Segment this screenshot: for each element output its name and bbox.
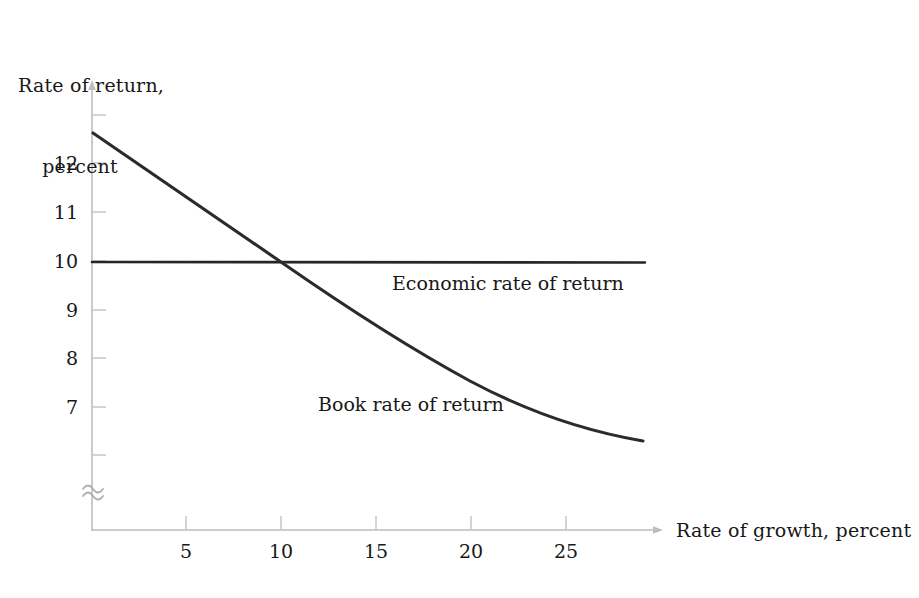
book-rate-of-return-label: Book rate of return xyxy=(318,393,504,415)
y-tick-label-12: 12 xyxy=(44,152,78,174)
y-tick-label-9: 9 xyxy=(44,299,78,321)
x-tick-label-10: 10 xyxy=(261,540,301,562)
y-tick-label-8: 8 xyxy=(44,347,78,369)
axes-group xyxy=(83,80,663,534)
y-tick-label-11: 11 xyxy=(44,201,78,223)
chart-figure: Rate of return, percent Rate of growth, … xyxy=(0,0,919,598)
y-axis-break-icon xyxy=(83,484,103,502)
y-axis-title: Rate of return, percent xyxy=(18,18,164,234)
economic-rate-of-return-line xyxy=(92,262,645,263)
x-tick-label-5: 5 xyxy=(166,540,206,562)
x-axis-arrow-icon xyxy=(653,526,663,534)
y-tick-label-10: 10 xyxy=(44,250,78,272)
y-axis-title-line2: percent xyxy=(18,153,164,180)
x-axis-title: Rate of growth, percent xyxy=(676,519,911,541)
economic-rate-of-return-label: Economic rate of return xyxy=(392,272,624,294)
x-tick-label-25: 25 xyxy=(546,540,586,562)
y-axis-title-line1: Rate of return, xyxy=(18,72,164,99)
y-tick-label-7: 7 xyxy=(44,396,78,418)
x-tick-label-20: 20 xyxy=(451,540,491,562)
x-tick-label-15: 15 xyxy=(356,540,396,562)
